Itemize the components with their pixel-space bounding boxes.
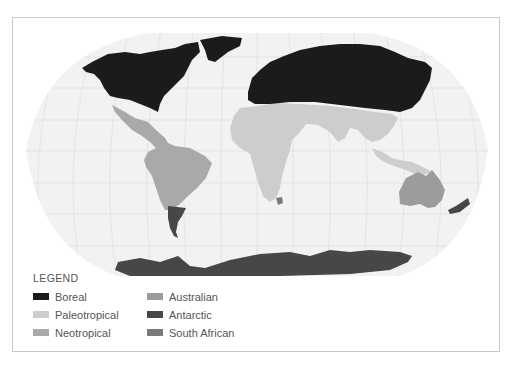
legend-title: LEGEND <box>33 272 287 284</box>
legend-item-south-african: South African <box>147 326 287 339</box>
swatch-antarctic <box>147 311 163 318</box>
legend-item-boreal: Boreal <box>33 290 147 303</box>
legend-label: Antarctic <box>169 309 212 321</box>
legend-item-australian: Australian <box>147 290 287 303</box>
legend-label: Paleotropical <box>55 309 119 321</box>
legend-item-paleotropical: Paleotropical <box>33 308 147 321</box>
swatch-paleotropical <box>33 311 49 318</box>
swatch-australian <box>147 293 163 300</box>
legend-label: Australian <box>169 291 218 303</box>
legend-item-neotropical: Neotropical <box>33 326 147 339</box>
legend-label: Boreal <box>55 291 87 303</box>
swatch-south-african <box>147 329 163 336</box>
legend-label: South African <box>169 327 234 339</box>
swatch-neotropical <box>33 329 49 336</box>
legend: LEGEND Boreal Australian Paleotropical A… <box>33 272 287 339</box>
legend-items: Boreal Australian Paleotropical Antarcti… <box>33 290 287 339</box>
swatch-boreal <box>33 293 49 300</box>
legend-label: Neotropical <box>55 327 111 339</box>
legend-item-antarctic: Antarctic <box>147 308 287 321</box>
